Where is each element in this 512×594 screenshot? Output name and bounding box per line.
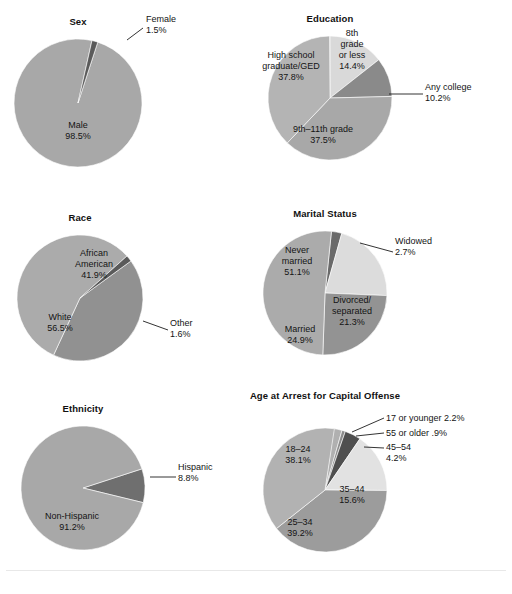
chart-title-ethnicity: Ethnicity — [62, 403, 104, 414]
leader-line-age-at-arrest-0 — [352, 418, 384, 432]
pie-chart-age-at-arrest: Age at Arrest for Capital Offense17 or y… — [250, 390, 465, 552]
pie-chart-figure: SexMale98.5%Female1.5%Education8thgradeo… — [0, 0, 512, 594]
slice-label-age-at-arrest-3: 35–4415.6% — [339, 484, 365, 505]
slice-label-age-at-arrest-5: 18–2438.1% — [285, 444, 311, 465]
pie-chart-sex: SexMale98.5%Female1.5% — [14, 14, 176, 167]
slice-label-marital-status-3: Nevermarried51.1% — [282, 245, 313, 277]
leader-line-sex-1 — [127, 28, 143, 40]
slice-label-sex-1: Female1.5% — [146, 14, 176, 35]
slice-label-age-at-arrest-2: 45–544.2% — [386, 442, 411, 463]
slice-label-race-2: Other1.6% — [170, 318, 193, 339]
leader-line-race-2 — [143, 321, 168, 330]
chart-title-race: Race — [68, 212, 91, 223]
slice-label-education-0: 8thgradeor less14.4% — [339, 28, 366, 71]
slice-label-education-1: Any college10.2% — [425, 82, 472, 103]
pie-chart-education: Education8thgradeor less14.4%Any college… — [262, 13, 471, 160]
slice-label-marital-status-2: Married24.9% — [285, 324, 316, 345]
slice-label-age-at-arrest-0: 17 or younger 2.2% — [386, 413, 465, 423]
chart-title-age-at-arrest: Age at Arrest for Capital Offense — [250, 390, 400, 401]
slice-label-race-1: White56.5% — [47, 312, 73, 333]
chart-title-education: Education — [307, 13, 354, 24]
pie-chart-marital-status: Marital StatusWidowed2.7%Divorced/separa… — [263, 208, 432, 355]
slice-label-age-at-arrest-4: 25–3439.2% — [287, 517, 313, 538]
pie-chart-race: RaceAfricanAmerican41.9%White56.5%Other1… — [17, 212, 193, 361]
leader-line-age-at-arrest-1 — [356, 433, 384, 436]
pie-chart-ethnicity: EthnicityHispanic8.8%Non-Hispanic91.2% — [21, 403, 213, 550]
footer-divider — [6, 570, 506, 571]
chart-title-marital-status: Marital Status — [293, 208, 357, 219]
slice-label-ethnicity-0: Hispanic8.8% — [178, 462, 213, 483]
slice-label-sex-0: Male98.5% — [65, 120, 91, 141]
slice-label-age-at-arrest-1: 55 or older .9% — [386, 428, 447, 438]
chart-title-sex: Sex — [69, 16, 87, 27]
slice-label-marital-status-0: Widowed2.7% — [395, 236, 432, 257]
